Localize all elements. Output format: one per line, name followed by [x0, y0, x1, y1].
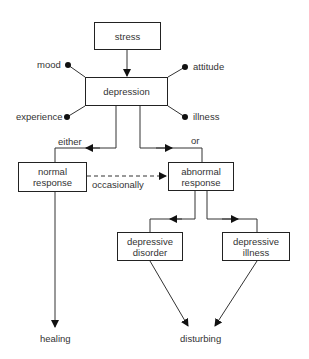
node-depressive-disorder-line2: disorder	[133, 247, 167, 258]
edge-label-occasionally: occasionally	[92, 179, 144, 190]
attitude-dot	[182, 64, 188, 70]
node-depressive-illness-line2: illness	[243, 247, 269, 258]
node-abnormal-response-line1: abnormal	[181, 166, 221, 177]
node-depressive-illness-line1: depressive	[233, 236, 279, 247]
node-depression: depression	[85, 77, 168, 106]
node-normal-response: normal response	[18, 162, 87, 192]
illness-dot	[182, 114, 188, 120]
aspect-attitude: attitude	[193, 61, 224, 72]
node-depressive-disorder: depressive disorder	[117, 232, 183, 261]
node-stress-label: stress	[115, 31, 140, 42]
node-depression-label: depression	[103, 86, 149, 97]
experience-dot	[64, 114, 70, 120]
outcome-healing: healing	[40, 333, 71, 344]
node-depressive-disorder-line1: depressive	[127, 236, 173, 247]
edge-label-either: either	[58, 136, 82, 147]
aspect-experience: experience	[16, 111, 62, 122]
outcome-disturbing: disturbing	[180, 333, 221, 344]
mood-dot	[65, 62, 71, 68]
aspect-illness: illness	[193, 111, 219, 122]
node-abnormal-response-line2: response	[181, 177, 220, 188]
edge-label-or: or	[191, 135, 199, 146]
node-normal-response-line1: normal	[38, 166, 67, 177]
node-depressive-illness: depressive illness	[222, 232, 290, 261]
node-abnormal-response: abnormal response	[168, 162, 234, 191]
node-stress: stress	[94, 22, 161, 50]
aspect-mood: mood	[37, 59, 61, 70]
node-normal-response-line2: response	[33, 177, 72, 188]
